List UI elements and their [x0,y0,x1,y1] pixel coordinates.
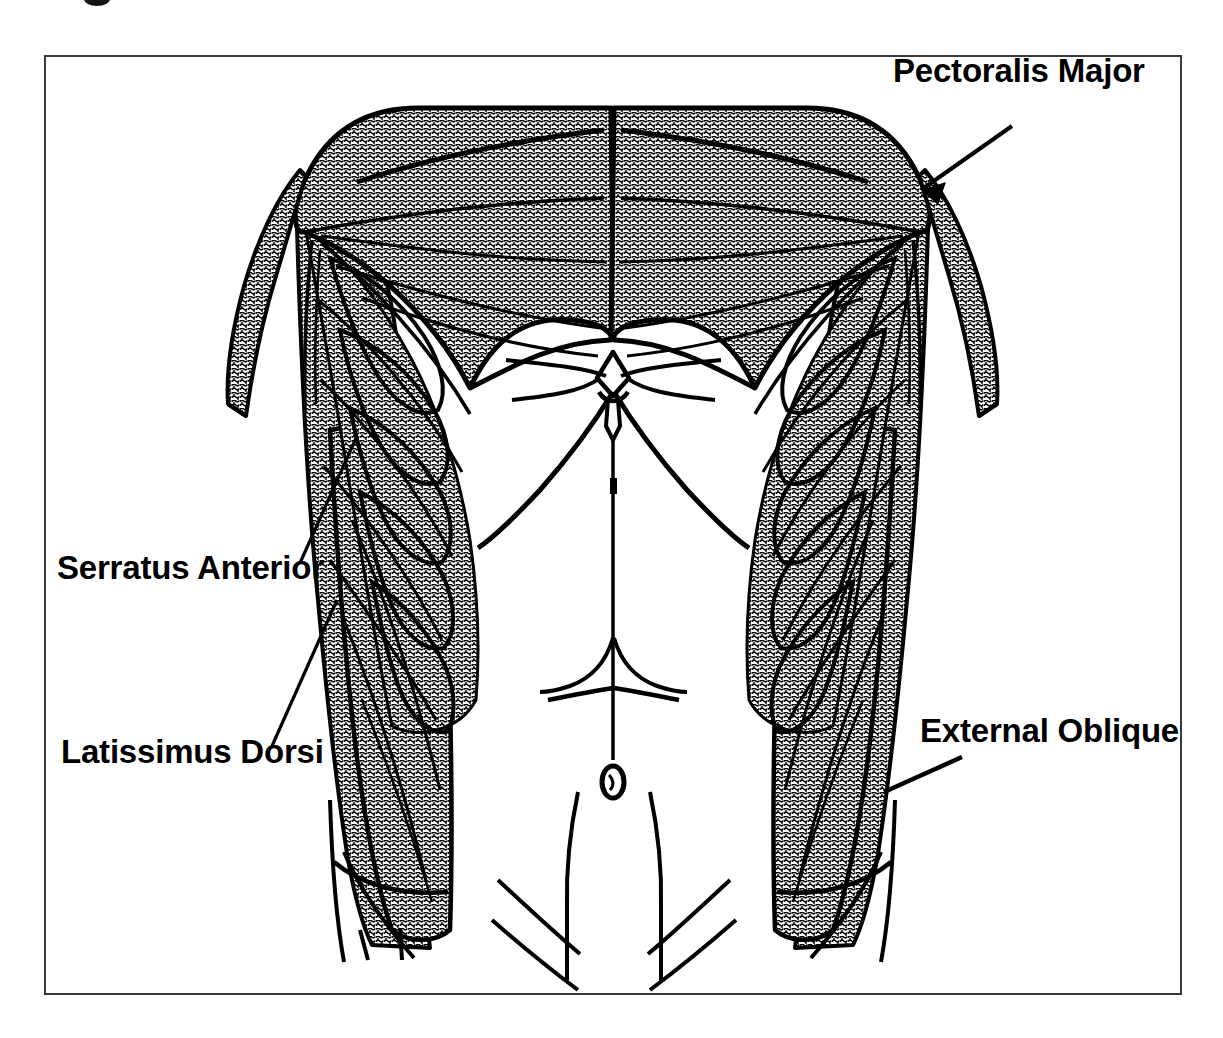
anatomy-figure: Pectoralis Major Serratus Anterior Latis… [0,0,1223,1038]
label-pectoralis-major: Pectoralis Major [893,52,1145,90]
top-edge-artifact [84,0,110,6]
label-external-oblique: External Oblique [920,712,1179,750]
label-serratus-anterior: Serratus Anterior [57,549,324,587]
label-latissimus-dorsi: Latissimus Dorsi [61,733,324,771]
figure-frame-border [44,55,1182,995]
